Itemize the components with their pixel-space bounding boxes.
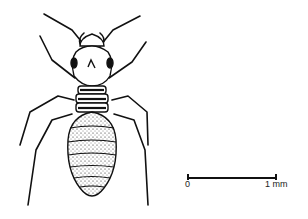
hind-left-leg — [28, 114, 72, 205]
middle-left-leg — [20, 96, 74, 145]
head — [71, 34, 113, 86]
scale-start-label: 0 — [185, 179, 190, 189]
scale-bar — [188, 174, 276, 180]
scale-end-label: 1 mm — [265, 179, 288, 189]
right-antenna — [100, 16, 140, 46]
figure — [0, 0, 308, 219]
hind-right-leg — [114, 114, 148, 205]
abdomen — [68, 112, 117, 196]
front-right-leg — [109, 42, 146, 78]
front-left-leg — [40, 36, 75, 78]
thorax — [76, 86, 108, 112]
middle-right-leg — [112, 96, 148, 145]
insect-illustration — [0, 0, 308, 219]
